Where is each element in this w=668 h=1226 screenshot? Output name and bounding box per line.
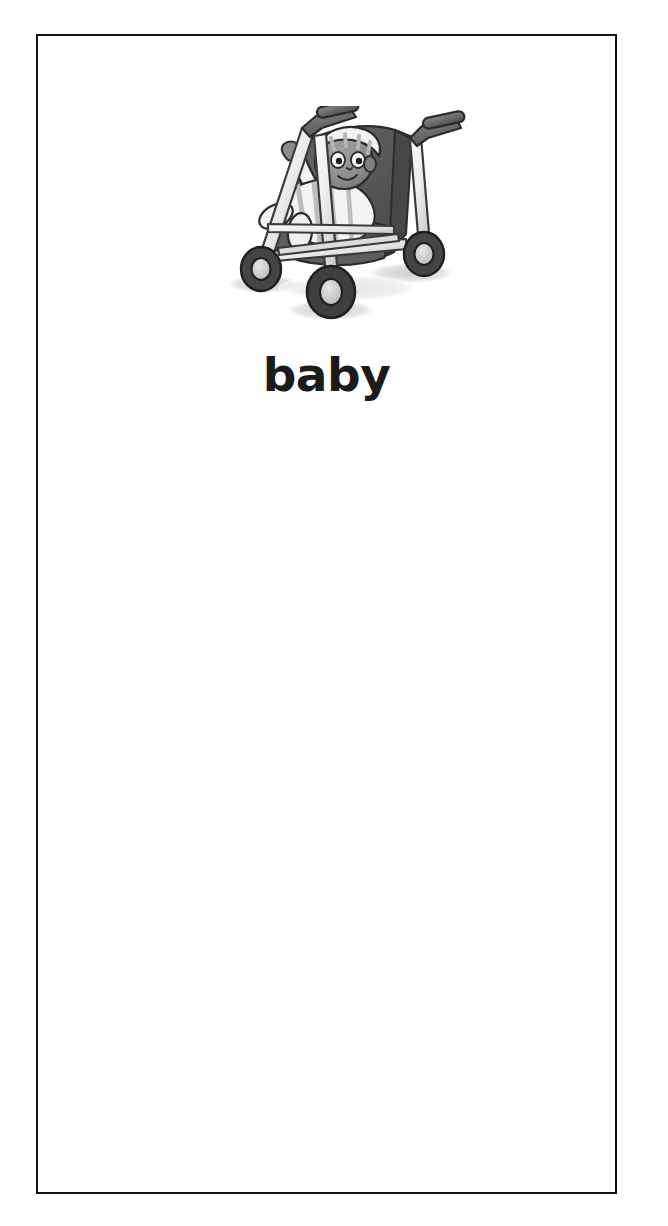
baby-in-stroller-illustration bbox=[198, 106, 528, 336]
illustration-container bbox=[198, 106, 528, 336]
card-border-frame: baby bbox=[36, 34, 617, 1194]
word-caption: baby bbox=[38, 351, 615, 398]
flashcard-page: baby bbox=[0, 0, 668, 1226]
